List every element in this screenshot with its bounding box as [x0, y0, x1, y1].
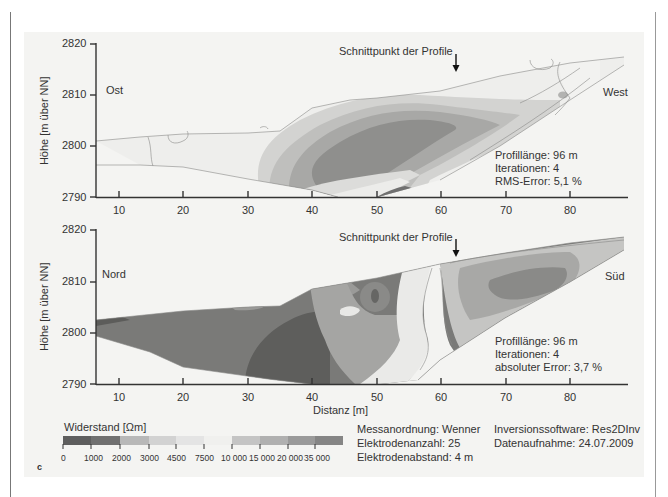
top-xtick-20: 20	[177, 204, 189, 218]
bottom-ytick-2790: 2790	[62, 378, 86, 392]
legend-colorbar	[63, 436, 343, 445]
legend-tick-7500: 7500	[195, 452, 214, 466]
legend-tick-15000: 15 000	[249, 452, 275, 466]
bottom-intersection-annotation: Schnittpunkt der Profile	[339, 231, 453, 245]
figure-letter: c	[37, 462, 42, 472]
bottom-right-label-sued: Süd	[605, 270, 625, 284]
bottom-xtick-50: 50	[371, 391, 383, 405]
meta-datum: Datenaufnahme: 24.07.2009	[494, 437, 633, 451]
bottom-xtick-10: 10	[113, 391, 125, 405]
top-left-label-ost: Ost	[106, 84, 123, 98]
bottom-xtick-30: 30	[242, 391, 254, 405]
legend-tick-35000: 35 000	[304, 452, 330, 466]
bottom-xtick-80: 80	[564, 391, 576, 405]
bottom-ytick-2820: 2820	[62, 223, 86, 237]
top-xtick-70: 70	[500, 204, 512, 218]
legend-tick-10000: 10 000	[221, 452, 247, 466]
intersection-arrow-bottom	[453, 239, 460, 257]
bottom-ytick-2810: 2810	[62, 275, 86, 289]
top-xtick-30: 30	[242, 204, 254, 218]
legend-tick-4500: 4500	[167, 452, 186, 466]
legend-tick-0: 0	[61, 452, 66, 466]
legend-tick-20000: 20 000	[277, 452, 303, 466]
top-intersection-annotation: Schnittpunkt der Profile	[339, 45, 453, 59]
bottom-xtick-40: 40	[306, 391, 318, 405]
top-xtick-50: 50	[371, 204, 383, 218]
legend-tick-1000: 1000	[84, 452, 103, 466]
meta-messanordnung: Messanordnung: Wenner	[357, 423, 480, 437]
top-xtick-60: 60	[435, 204, 447, 218]
top-ylabel: Höhe [m über NN]	[38, 61, 52, 181]
top-info-error: RMS-Error: 5,1 %	[495, 175, 582, 189]
top-xtick-10: 10	[113, 204, 125, 218]
legend-tick-3000: 3000	[140, 452, 159, 466]
top-info-iterations: Iterationen: 4	[495, 162, 559, 176]
bottom-ytick-2800: 2800	[62, 326, 86, 340]
legend-title: Widerstand [Ωm]	[64, 421, 146, 435]
bottom-xtick-60: 60	[435, 391, 447, 405]
top-ytick-2790: 2790	[62, 191, 86, 205]
top-xtick-40: 40	[306, 204, 318, 218]
top-ytick-2820: 2820	[62, 37, 86, 51]
top-ytick-2810: 2810	[62, 88, 86, 102]
intersection-arrow-top	[453, 54, 460, 72]
meta-elektrodenabstand: Elektrodenabstand: 4 m	[357, 451, 473, 465]
bottom-xlabel: Distanz [m]	[313, 404, 368, 418]
meta-software: Inversionssoftware: Res2DInv	[494, 423, 640, 437]
top-right-label-west: West	[603, 86, 628, 100]
bottom-info-length: Profillänge: 96 m	[495, 335, 578, 349]
meta-elektrodenanzahl: Elektrodenanzahl: 25	[357, 437, 460, 451]
bottom-info-error: absoluter Error: 3,7 %	[495, 361, 602, 375]
top-xtick-80: 80	[564, 204, 576, 218]
bottom-left-label-nord: Nord	[102, 268, 126, 282]
top-info-length: Profillänge: 96 m	[495, 149, 578, 163]
bottom-info-iterations: Iterationen: 4	[495, 348, 559, 362]
bottom-xtick-20: 20	[177, 391, 189, 405]
bottom-xtick-70: 70	[500, 391, 512, 405]
bottom-ylabel: Höhe [m über NN]	[38, 247, 52, 367]
legend-tick-2000: 2000	[112, 452, 131, 466]
top-ytick-2800: 2800	[62, 139, 86, 153]
